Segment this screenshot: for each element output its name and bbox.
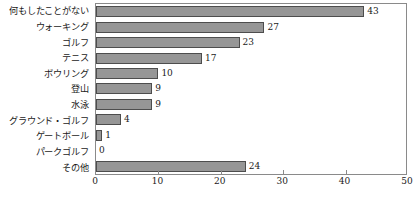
x-tick-label: 30 (276, 177, 287, 186)
bar-value-label: 0 (99, 146, 105, 155)
bar (96, 161, 246, 172)
category-label: グラウンド・ゴルフ (0, 112, 92, 128)
bar (96, 53, 202, 64)
category-label: 水泳 (0, 97, 92, 113)
x-tick-label: 40 (339, 177, 350, 186)
bar-value-label: 43 (367, 7, 378, 16)
bar-value-label: 24 (249, 162, 260, 171)
x-axis-tick-mark (221, 170, 222, 174)
category-label: テニス (0, 50, 92, 66)
category-label: パークゴルフ (0, 144, 92, 160)
bar (96, 37, 240, 48)
x-tick-label: 10 (152, 177, 163, 186)
bar-value-label: 9 (155, 100, 161, 109)
category-label: ウォーキング (0, 19, 92, 35)
bar-row: 27 (96, 19, 406, 34)
bar-row: 10 (96, 66, 406, 81)
bar-row: 17 (96, 50, 406, 65)
bar (96, 83, 152, 94)
category-axis-labels: 何もしたことがないウォーキングゴルフテニスボウリング登山水泳グラウンド・ゴルフゲ… (0, 3, 92, 175)
bar-value-label: 17 (205, 54, 216, 63)
bar-value-label: 27 (267, 23, 278, 32)
bar-value-label: 1 (105, 131, 111, 140)
bar-row: 23 (96, 35, 406, 50)
x-axis-tick-mark (283, 170, 284, 174)
category-label: 何もしたことがない (0, 3, 92, 19)
bar-series: 43272317109941024 (96, 4, 406, 174)
bar-value-label: 10 (161, 69, 172, 78)
bar (96, 130, 102, 141)
bar-value-label: 4 (124, 115, 130, 124)
bar-row: 43 (96, 4, 406, 19)
plot-inner: 43272317109941024 (96, 4, 406, 174)
bar (96, 22, 264, 33)
x-tick-label: 50 (401, 177, 412, 186)
bar-row: 0 (96, 143, 406, 158)
bar (96, 6, 364, 17)
bar-value-label: 9 (155, 84, 161, 93)
bar-row: 9 (96, 97, 406, 112)
bar-row: 9 (96, 81, 406, 96)
category-label: 登山 (0, 81, 92, 97)
category-label: ゴルフ (0, 34, 92, 50)
x-tick-label: 20 (214, 177, 225, 186)
x-tick-label: 0 (92, 177, 98, 186)
x-axis-tick-labels: 01020304050 (95, 177, 407, 191)
bar (96, 99, 152, 110)
bar-value-label: 23 (243, 38, 254, 47)
horizontal-bar-chart: 何もしたことがないウォーキングゴルフテニスボウリング登山水泳グラウンド・ゴルフゲ… (0, 0, 414, 200)
category-label: その他 (0, 159, 92, 175)
x-axis-tick-mark (346, 170, 347, 174)
bar-row: 4 (96, 112, 406, 127)
category-label: ゲートボール (0, 128, 92, 144)
bar-row: 24 (96, 159, 406, 174)
bar (96, 114, 121, 125)
plot-area: 43272317109941024 (95, 3, 407, 175)
bar-row: 1 (96, 128, 406, 143)
bar (96, 68, 158, 79)
category-label: ボウリング (0, 66, 92, 82)
x-axis-tick-mark (158, 170, 159, 174)
